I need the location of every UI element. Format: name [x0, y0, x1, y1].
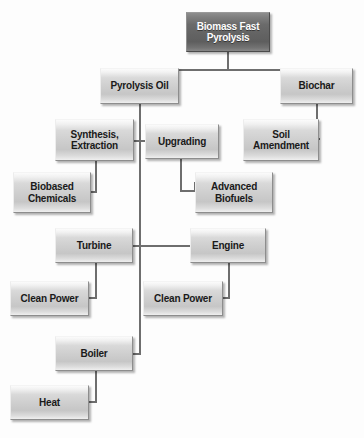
node-label-line1: Pyrolysis Oil: [108, 80, 172, 91]
edge-synthesis-down: [95, 160, 97, 192]
node-label-line1: Biomass Fast: [194, 21, 263, 32]
node-label-line2: Extraction: [67, 140, 121, 151]
node-label-line1: Biobased: [25, 181, 79, 192]
node-soil-amendment[interactable]: Soil Amendment: [243, 119, 319, 161]
node-label-line1: Heat: [36, 397, 63, 408]
node-label-line1: Engine: [209, 240, 247, 251]
node-label-line2: Chemicals: [25, 193, 79, 204]
node-biochar[interactable]: Biochar: [280, 68, 353, 104]
node-label-line1: Clean Power: [151, 293, 215, 304]
node-upgrading[interactable]: Upgrading: [145, 124, 219, 159]
node-boiler[interactable]: Boiler: [55, 336, 133, 371]
node-clean-power-engine[interactable]: Clean Power: [143, 281, 223, 316]
node-label-line2: Amendment: [250, 140, 312, 151]
node-turbine[interactable]: Turbine: [55, 228, 133, 263]
node-biobased-chemicals[interactable]: Biobased Chemicals: [13, 172, 91, 213]
node-engine[interactable]: Engine: [190, 228, 266, 263]
node-label-line2: Pyrolysis: [194, 32, 263, 43]
node-label-line1: Upgrading: [155, 136, 209, 147]
flowchart-canvas: Biomass Fast Pyrolysis Pyrolysis Oil Bio…: [0, 0, 364, 438]
edge-engine-down: [228, 262, 230, 299]
edge-upgrading-down: [180, 158, 182, 191]
node-advanced-biofuels[interactable]: Advanced Biofuels: [195, 172, 273, 213]
edge-boiler-to-heat: [88, 401, 97, 403]
node-clean-power-turbine[interactable]: Clean Power: [10, 281, 89, 316]
node-label-line1: Biochar: [296, 80, 338, 91]
node-label-line1: Boiler: [77, 348, 110, 359]
node-synthesis-extraction[interactable]: Synthesis, Extraction: [55, 119, 134, 161]
edge-boiler-down: [95, 370, 97, 403]
node-label-line1: Turbine: [74, 240, 115, 251]
node-heat[interactable]: Heat: [10, 385, 89, 420]
node-label-line1: Clean Power: [18, 293, 82, 304]
edge-trunk-to-engine: [139, 245, 193, 247]
edge-turbine-down: [95, 262, 97, 299]
node-label-line1: Soil: [250, 129, 312, 140]
node-pyrolysis-oil[interactable]: Pyrolysis Oil: [100, 68, 179, 104]
node-biomass-fast-pyrolysis[interactable]: Biomass Fast Pyrolysis: [186, 12, 270, 52]
node-label-line1: Synthesis,: [67, 129, 121, 140]
node-label-line1: Advanced: [208, 181, 260, 192]
node-label-line2: Biofuels: [208, 193, 260, 204]
edge-root-to-split: [227, 52, 229, 70]
